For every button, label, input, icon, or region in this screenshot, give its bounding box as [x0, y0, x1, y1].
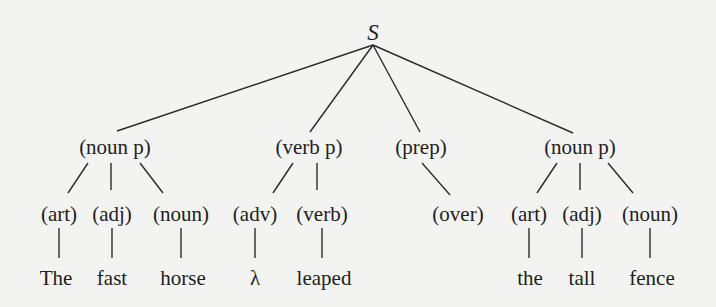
- phrase-node-vp: (verb p): [275, 135, 342, 159]
- pos-tag-node-t6: (over): [432, 202, 483, 226]
- phrase-node-pp: (prep): [395, 135, 446, 159]
- parse-tree-diagram: S (noun p)(verb p)(prep)(noun p)(art)(ad…: [0, 0, 716, 307]
- pos-tag-node-t8: (adj): [562, 202, 602, 226]
- edge-pp-t6: [422, 163, 450, 195]
- edge-S-np1: [117, 45, 373, 131]
- word-leaf-w8: fence: [629, 266, 674, 290]
- phrase-node-np1: (noun p): [79, 135, 151, 159]
- edge-S-pp: [373, 45, 420, 132]
- pos-tag-node-t5: (verb): [296, 202, 347, 226]
- word-leaf-w3: horse: [160, 266, 206, 290]
- edge-np1-t3: [140, 163, 163, 193]
- pos-tag-node-t4: (adv): [233, 202, 277, 226]
- root-node-s: S: [367, 20, 379, 45]
- word-leaf-w1: The: [40, 266, 73, 290]
- pos-tag-node-t3: (noun): [153, 202, 209, 226]
- word-leaf-w4: λ: [250, 266, 261, 290]
- pos-tag-node-t1: (art): [41, 202, 77, 226]
- edge-np2-t9: [608, 163, 633, 193]
- edge-S-np2: [373, 45, 573, 133]
- edge-np1-t1: [68, 163, 88, 193]
- pos-tag-node-t2: (adj): [92, 202, 132, 226]
- edge-np2-t7: [537, 163, 557, 193]
- pos-tag-node-t7: (art): [511, 202, 547, 226]
- word-leaf-w2: fast: [97, 266, 127, 290]
- pos-tag-node-t9: (noun): [622, 202, 678, 226]
- word-leaf-w6: the: [517, 266, 543, 290]
- edge-S-vp: [310, 45, 373, 132]
- phrase-node-np2: (noun p): [544, 135, 616, 159]
- word-leaf-w7: tall: [569, 266, 596, 290]
- edge-vp-t4: [273, 163, 293, 193]
- word-leaf-w5: leaped: [297, 266, 352, 290]
